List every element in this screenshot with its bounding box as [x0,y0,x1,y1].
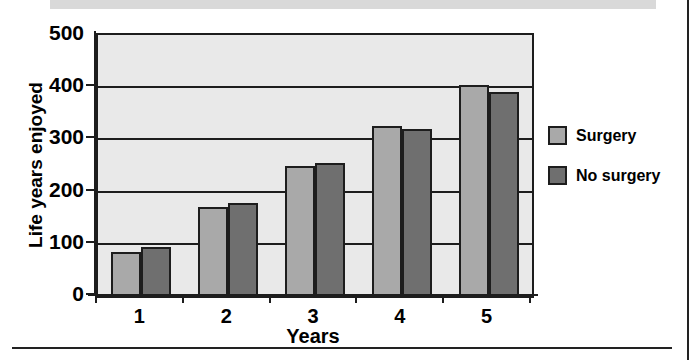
x-tick-mark [529,294,531,303]
legend-label: Surgery [576,127,636,145]
y-tick-mark [86,136,96,138]
page-root: 0100200300400500 Life years enjoyed 1234… [0,0,694,360]
x-tick-mark [269,294,271,303]
plot-area [96,33,534,298]
bar-no-surgery-year-1 [141,247,171,296]
legend-swatch-icon [548,166,567,185]
x-axis-line [88,294,538,296]
legend-swatch-icon [548,126,567,145]
y-tick-label: 0 [4,283,84,304]
x-tick-label: 1 [109,306,169,326]
x-tick-label: 4 [370,306,430,326]
x-tick-label: 3 [283,306,343,326]
y-tick-mark [86,189,96,191]
x-tick-mark [182,294,184,303]
bar-surgery-year-4 [372,126,402,296]
y-tick-label: 500 [4,22,84,43]
y-axis-line [94,31,96,296]
bar-chart: 0100200300400500 Life years enjoyed 1234… [0,0,694,360]
bar-surgery-year-3 [285,166,315,297]
bar-no-surgery-year-3 [315,163,345,296]
bar-surgery-year-1 [111,252,141,296]
legend-item[interactable]: No surgery [548,166,678,185]
x-tick-label: 2 [196,306,256,326]
chart-legend: SurgeryNo surgery [548,126,678,206]
bar-surgery-year-5 [459,85,489,296]
y-tick-mark [86,241,96,243]
bar-no-surgery-year-4 [402,129,432,296]
bar-surgery-year-2 [198,207,228,296]
x-tick-label: 5 [457,306,517,326]
legend-item[interactable]: Surgery [548,126,678,145]
x-axis-title: Years [96,325,530,348]
bar-no-surgery-year-5 [489,92,519,296]
x-tick-mark [355,294,357,303]
x-tick-mark [442,294,444,303]
x-tick-mark [95,294,97,303]
legend-label: No surgery [576,167,660,185]
y-tick-mark [86,84,96,86]
bar-no-surgery-year-2 [228,203,258,296]
y-axis-title: Life years enjoyed [25,45,47,285]
